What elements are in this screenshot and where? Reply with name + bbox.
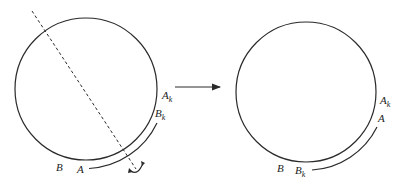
label-B-right: B [277, 162, 284, 174]
reflection-axis [32, 11, 136, 169]
right-outer-arc [312, 127, 377, 170]
right-panel: Ak A B Bk [236, 22, 391, 179]
label-Ak-right: Ak [379, 94, 391, 109]
left-panel: Ak Bk B A [15, 11, 173, 175]
label-Bk-left: Bk [155, 107, 166, 122]
label-Bk-right: Bk [295, 164, 306, 179]
right-circle [236, 22, 376, 162]
rotation-arrow-icon [128, 161, 145, 173]
label-A-left: A [76, 163, 84, 175]
label-B-left: B [56, 161, 63, 173]
label-Ak-left: Ak [161, 89, 173, 104]
label-A-right: A [377, 112, 385, 124]
left-outer-arc [89, 123, 157, 169]
diagram-canvas: Ak Bk B A Ak A B Bk [0, 0, 403, 191]
left-circle [15, 18, 157, 160]
